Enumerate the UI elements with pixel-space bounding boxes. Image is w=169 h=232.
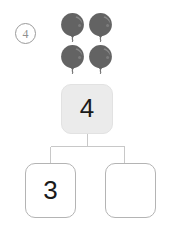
worksheet-problem: 4 [0,0,169,232]
number-bond-total-value: 4 [80,95,94,121]
number-bond-total-box[interactable]: 4 [61,84,113,134]
balloon-icon [60,45,85,74]
number-bond-part-box-left[interactable]: 3 [25,163,76,218]
number-bond-part-value-left: 3 [43,177,57,203]
balloon-group [58,12,116,80]
balloon-icon [60,13,85,42]
problem-number-badge: 4 [15,23,36,44]
number-bond-part-box-right[interactable] [105,163,156,218]
problem-number-label: 4 [23,27,29,39]
balloon-icon [88,45,113,74]
balloon-icon [88,13,113,42]
